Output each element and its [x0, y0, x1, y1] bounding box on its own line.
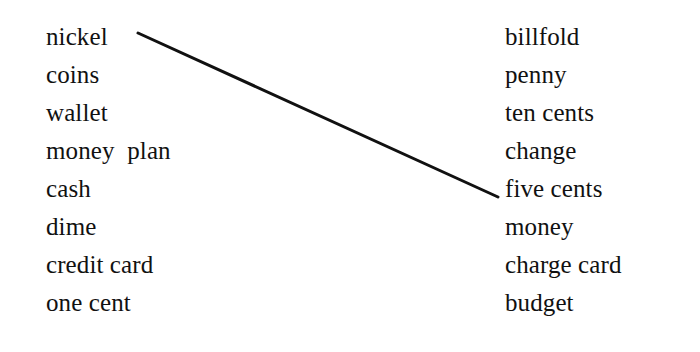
left-word-column: nickel coins wallet money plan cash dime…: [46, 0, 346, 352]
left-word-item[interactable]: money plan: [46, 132, 171, 170]
right-word-item[interactable]: money: [505, 208, 574, 246]
left-word-item[interactable]: credit card: [46, 246, 153, 284]
right-word-column: billfold penny ten cents change five cen…: [505, 0, 700, 352]
left-word-item[interactable]: dime: [46, 208, 96, 246]
right-word-item[interactable]: ten cents: [505, 94, 594, 132]
right-word-item[interactable]: billfold: [505, 18, 579, 56]
right-word-item[interactable]: penny: [505, 56, 567, 94]
left-word-item[interactable]: wallet: [46, 94, 108, 132]
right-word-item[interactable]: five cents: [505, 170, 602, 208]
matching-exercise-canvas: nickel coins wallet money plan cash dime…: [0, 0, 700, 352]
left-word-item[interactable]: nickel: [46, 18, 108, 56]
left-word-item[interactable]: cash: [46, 170, 91, 208]
right-word-item[interactable]: change: [505, 132, 576, 170]
left-word-item[interactable]: coins: [46, 56, 99, 94]
right-word-item[interactable]: budget: [505, 284, 574, 322]
right-word-item[interactable]: charge card: [505, 246, 622, 284]
left-word-item[interactable]: one cent: [46, 284, 131, 322]
